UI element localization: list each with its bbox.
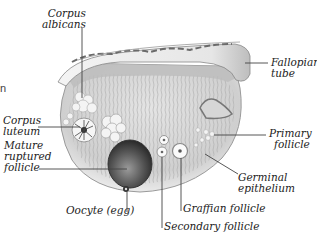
label-fallopian-tube: Fallopian tube	[271, 57, 317, 79]
ovary-diagram: n Corpus albicans Fallopian tube Corpus …	[0, 0, 317, 235]
label-graffian-follicle: Graffian follicle	[183, 203, 266, 214]
edge-text-fragment: n	[0, 82, 6, 94]
ovary-illustration	[0, 0, 317, 235]
label-oocyte: Oocyte (egg)	[66, 205, 134, 216]
label-mature-ruptured-follicle: Mature ruptured follicle	[4, 140, 51, 173]
label-corpus-albicans: Corpus albicans	[42, 8, 86, 30]
label-primary-follicle: Primary follicle	[269, 128, 312, 150]
label-corpus-luteum: Corpus luteum	[3, 115, 41, 137]
graffian-follicle-shape	[173, 144, 188, 159]
label-germinal-epithelium: Germinal epithelium	[238, 172, 295, 194]
corpus-luteum-shape	[72, 118, 96, 142]
label-secondary-follicle: Secondary follicle	[164, 221, 259, 232]
